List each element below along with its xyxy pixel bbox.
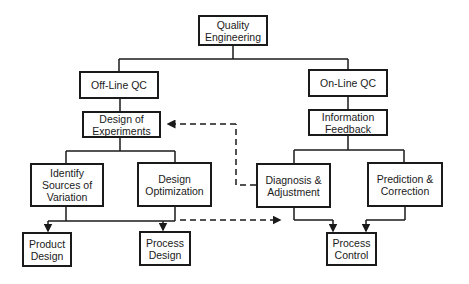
node-online-qc: On-Line QC [308,69,388,97]
node-process-design: Process Design [139,231,191,266]
node-identify-sources: Identify Sources of Variation [30,163,104,207]
node-diagnosis-adjustment: Diagnosis & Adjustment [256,163,331,208]
node-process-control: Process Control [326,232,377,266]
node-design-of-experiments: Design of Experiments [82,111,161,138]
node-design-optimization: Design Optimization [137,162,212,207]
node-information-feedback: Information Feedback [308,109,388,136]
node-product-design: Product Design [22,232,72,267]
node-prediction-correction: Prediction & Correction [367,162,443,207]
node-quality-engineering: Quality Engineering [198,15,268,46]
node-offline-qc: Off-Line QC [79,71,159,99]
